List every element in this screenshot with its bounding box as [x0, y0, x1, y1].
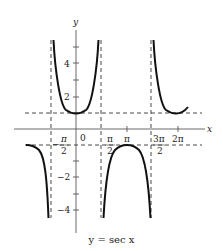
- svg-text:3π: 3π: [153, 134, 165, 144]
- svg-text:π: π: [124, 134, 130, 144]
- sec-graph: x y 4 2 −2 −4 − π 2 0 π: [0, 0, 223, 251]
- y-axis-label: y: [72, 17, 79, 27]
- y-tick-2: 2: [64, 92, 70, 102]
- svg-text:π: π: [60, 134, 68, 144]
- branch-right: [154, 40, 189, 114]
- y-tick-4: 4: [64, 59, 70, 69]
- y-tick-neg4: −4: [57, 205, 71, 215]
- svg-text:2π: 2π: [172, 134, 184, 144]
- svg-text:π: π: [107, 134, 113, 144]
- graph-caption: y = sec x: [0, 234, 223, 245]
- y-tick-neg2: −2: [57, 172, 70, 182]
- svg-text:2: 2: [157, 146, 163, 156]
- svg-text:2: 2: [61, 146, 67, 156]
- x-axis-label: x: [207, 124, 212, 134]
- x-tick-labels: − π 2 0 π 2 π 3π 2 2π: [52, 133, 184, 156]
- branch-left: [26, 145, 49, 218]
- svg-text:−: −: [52, 139, 60, 149]
- svg-text:0: 0: [80, 133, 86, 143]
